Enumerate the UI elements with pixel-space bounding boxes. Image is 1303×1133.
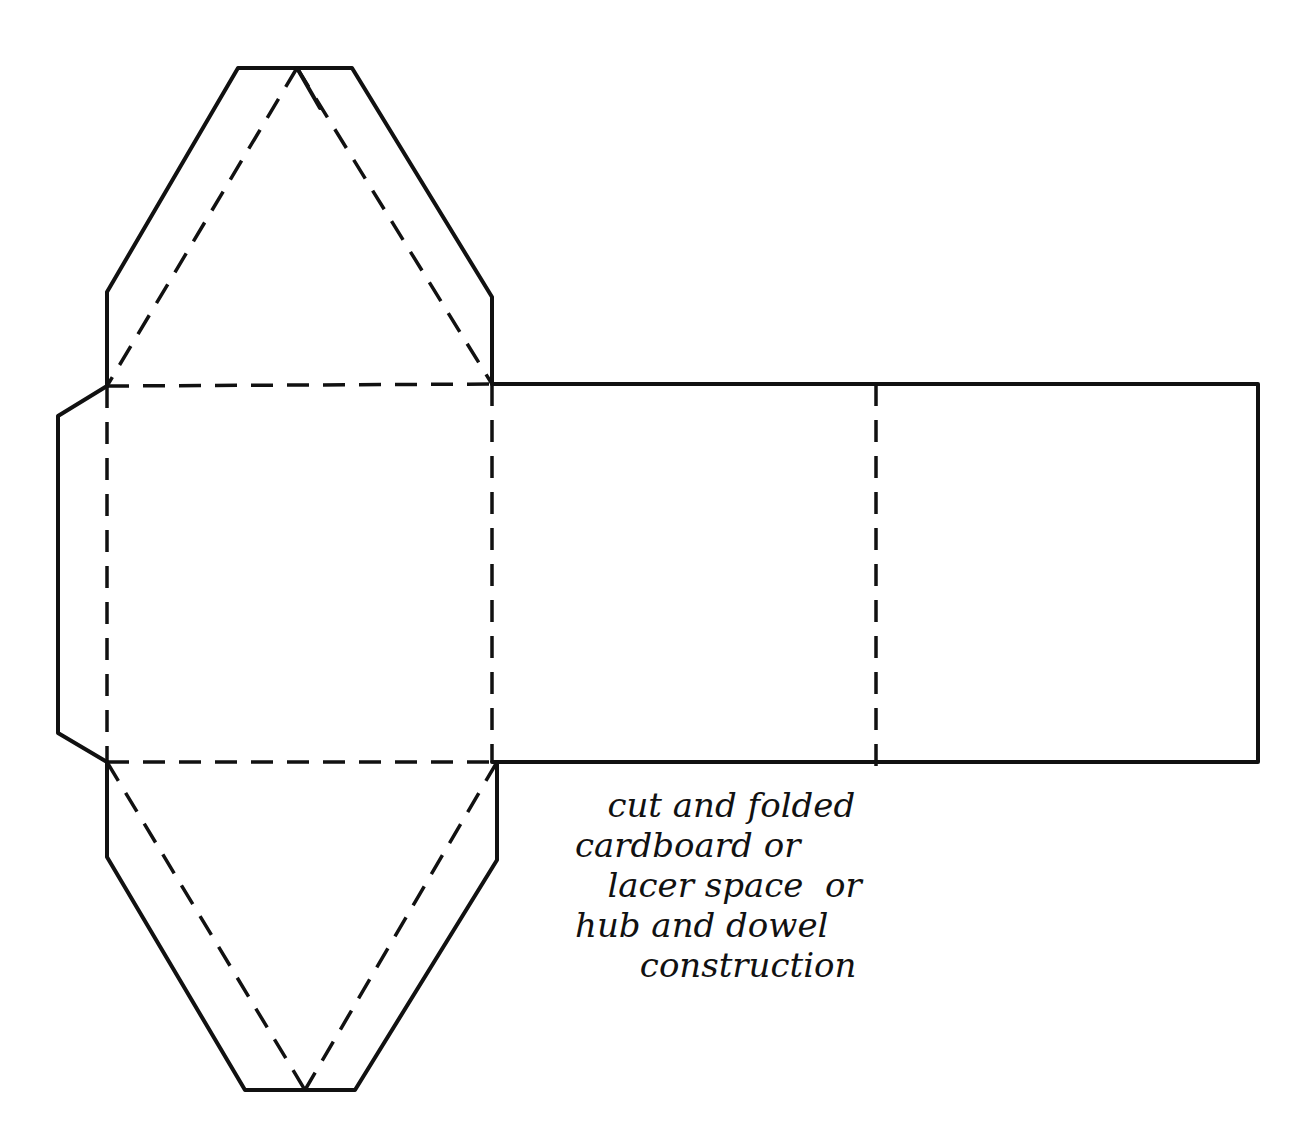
bottom-cap-fold-right (305, 762, 497, 1090)
top-cap-outline (107, 68, 492, 386)
note-line-1: cut and folded (575, 785, 862, 825)
note-line-5: construction (575, 945, 862, 985)
panel-fold-top (107, 384, 492, 386)
top-cap-apex (297, 68, 320, 108)
handwritten-note: cut and folded cardboard or lacer space … (575, 785, 862, 985)
bottom-cap-fold-left (107, 762, 305, 1090)
bottom-cap-outline (107, 762, 497, 1090)
top-cap-fold-right (297, 68, 492, 384)
note-line-3: lacer space or (575, 865, 862, 905)
top-cap-fold-left (107, 68, 297, 386)
left-glue-tab (58, 386, 107, 762)
note-line-2: cardboard or (575, 825, 862, 865)
note-line-4: hub and dowel (575, 905, 862, 945)
